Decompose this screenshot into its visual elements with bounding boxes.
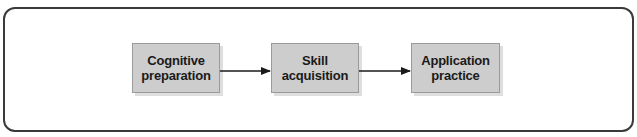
step-label: Cognitive preparation	[141, 53, 210, 83]
step-application-practice: Application practice	[411, 43, 500, 93]
step-cognitive-preparation: Cognitive preparation	[132, 43, 220, 93]
step-label: Skill acquisition	[282, 53, 348, 83]
step-skill-acquisition: Skill acquisition	[271, 43, 359, 93]
step-label: Application practice	[421, 53, 490, 83]
